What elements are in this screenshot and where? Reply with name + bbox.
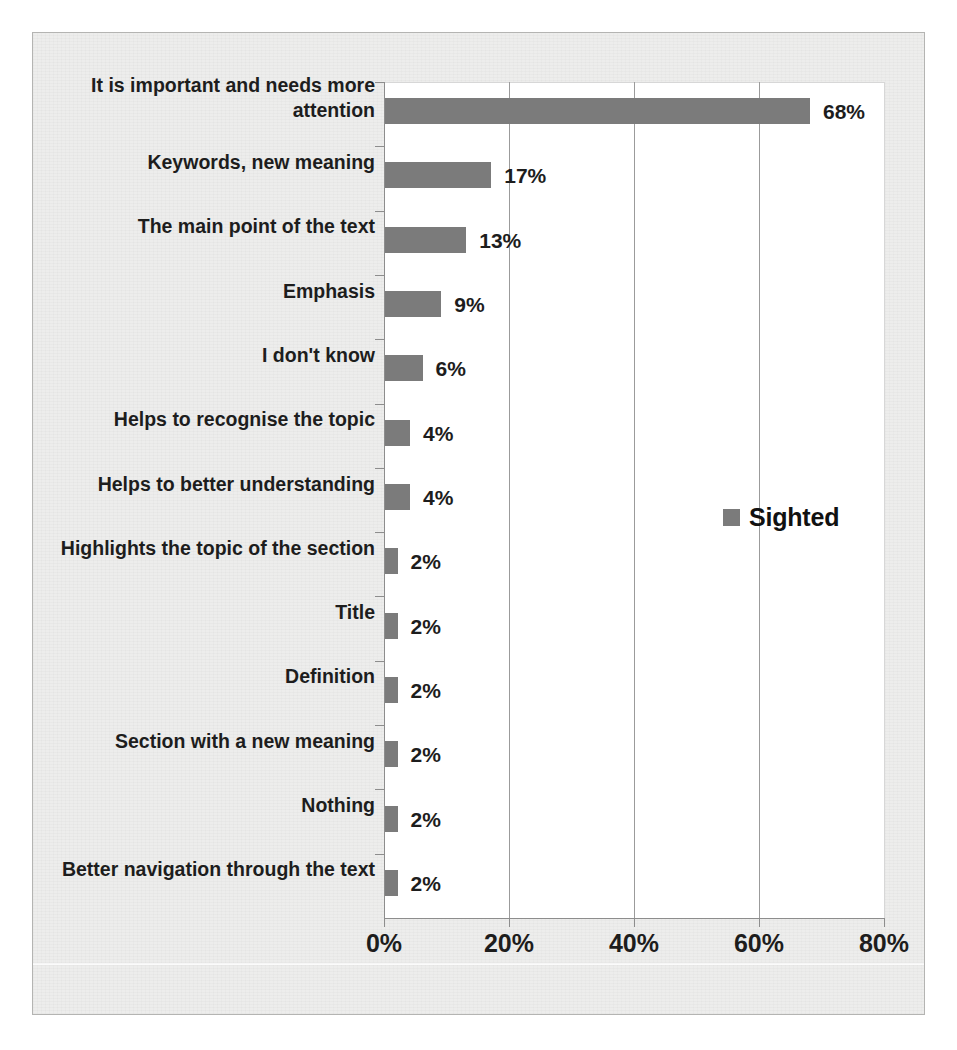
y-tick-8 <box>375 596 384 597</box>
legend-swatch-sighted <box>723 509 740 526</box>
bar-value-label: 2% <box>411 807 441 833</box>
y-tick-7 <box>375 532 384 533</box>
category-label: Highlights the topic of the section <box>45 536 375 561</box>
y-tick-5 <box>375 404 384 405</box>
bar <box>385 613 398 639</box>
y-tick-3 <box>375 275 384 276</box>
category-label: It is important and needs more attention <box>45 73 375 123</box>
bar <box>385 162 491 188</box>
x-tick-label-20%: 20% <box>454 929 564 958</box>
category-label: I don't know <box>45 343 375 368</box>
gridline-60% <box>759 82 760 918</box>
y-tick-12 <box>375 854 384 855</box>
x-tick-label-40%: 40% <box>579 929 689 958</box>
y-tick-0 <box>375 82 384 83</box>
category-label: The main point of the text <box>45 214 375 239</box>
chart-legend: Sighted <box>723 503 839 532</box>
y-tick-6 <box>375 468 384 469</box>
chart-figure-frame: 68%17%13%9%6%4%4%2%2%2%2%2%2% It is impo… <box>32 32 925 1015</box>
x-tick-label-0%: 0% <box>329 929 439 958</box>
y-tick-1 <box>375 146 384 147</box>
x-tick-80% <box>884 918 885 927</box>
bar-value-label: 2% <box>411 549 441 575</box>
category-label: Section with a new meaning <box>45 729 375 754</box>
category-label: Definition <box>45 664 375 689</box>
legend-label-sighted: Sighted <box>749 503 839 532</box>
bar <box>385 806 398 832</box>
bar-value-label: 2% <box>411 678 441 704</box>
category-label: Emphasis <box>45 279 375 304</box>
bar-value-label: 17% <box>504 163 546 189</box>
bar-value-label: 6% <box>436 356 466 382</box>
category-label: Title <box>45 600 375 625</box>
bar <box>385 484 410 510</box>
bar <box>385 291 441 317</box>
bar-value-label: 13% <box>479 228 521 254</box>
bar-value-label: 2% <box>411 871 441 897</box>
category-label: Better navigation through the text <box>45 857 375 882</box>
x-tick-label-60%: 60% <box>704 929 814 958</box>
y-tick-2 <box>375 211 384 212</box>
y-tick-4 <box>375 339 384 340</box>
bar <box>385 548 398 574</box>
y-tick-10 <box>375 725 384 726</box>
category-label: Helps to better understanding <box>45 472 375 497</box>
bar-value-label: 4% <box>423 421 453 447</box>
bar <box>385 741 398 767</box>
category-label: Nothing <box>45 793 375 818</box>
category-label: Keywords, new meaning <box>45 150 375 175</box>
bar-value-label: 4% <box>423 485 453 511</box>
x-tick-label-80%: 80% <box>829 929 939 958</box>
category-label: Helps to recognise the topic <box>45 407 375 432</box>
bar <box>385 227 466 253</box>
x-tick-60% <box>759 918 760 927</box>
bar <box>385 420 410 446</box>
bar <box>385 355 423 381</box>
gridline-20% <box>509 82 510 918</box>
bar <box>385 98 810 124</box>
bar <box>385 870 398 896</box>
bar-value-label: 68% <box>823 99 865 125</box>
bar-chart: 68%17%13%9%6%4%4%2%2%2%2%2%2% It is impo… <box>33 33 926 1016</box>
bar-value-label: 2% <box>411 742 441 768</box>
x-tick-40% <box>634 918 635 927</box>
bar-value-label: 9% <box>454 292 484 318</box>
y-tick-11 <box>375 789 384 790</box>
y-tick-9 <box>375 661 384 662</box>
x-tick-0% <box>384 918 385 927</box>
bar <box>385 677 398 703</box>
bar-value-label: 2% <box>411 614 441 640</box>
gridline-40% <box>634 82 635 918</box>
x-tick-20% <box>509 918 510 927</box>
